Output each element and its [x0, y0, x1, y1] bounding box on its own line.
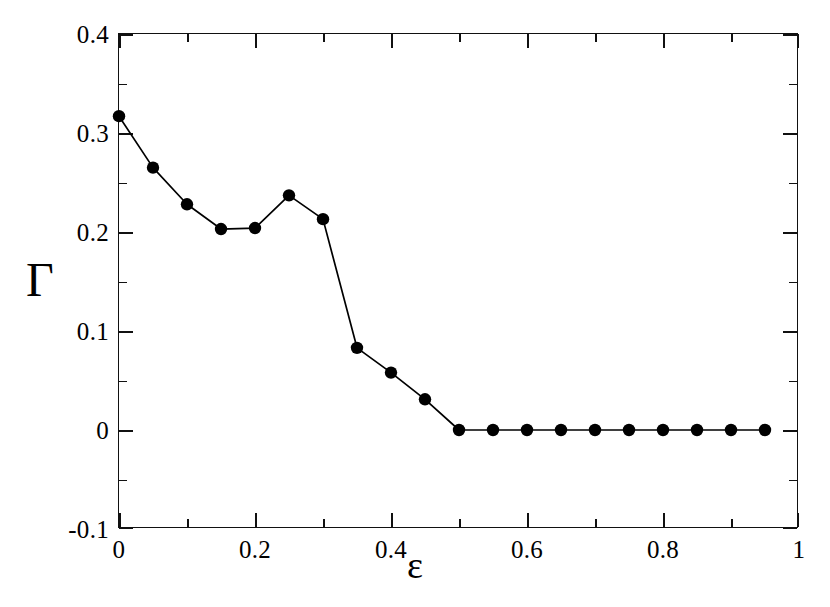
data-point: [657, 424, 669, 436]
data-point: [691, 424, 703, 436]
data-point: [283, 189, 295, 201]
y-tick-label: 0: [5, 418, 109, 443]
data-point: [181, 198, 193, 210]
data-point: [113, 110, 125, 122]
data-point: [147, 161, 159, 173]
x-tick-label: 0.4: [346, 537, 436, 562]
y-axis-title: Γ: [26, 256, 54, 304]
x-tick-label: 0.2: [210, 537, 300, 562]
x-tick-label: 0.6: [482, 537, 572, 562]
chart-figure: Γ ε: [0, 0, 830, 607]
data-point: [487, 424, 499, 436]
data-point: [249, 222, 261, 234]
data-point: [419, 393, 431, 405]
data-point: [215, 223, 227, 235]
x-tick-label: 0.8: [618, 537, 708, 562]
y-tick-label: 0.2: [5, 220, 109, 245]
data-point: [623, 424, 635, 436]
y-tick-label: 0.3: [5, 121, 109, 146]
data-point: [317, 213, 329, 225]
data-point: [759, 424, 771, 436]
x-tick-label: 0: [74, 537, 164, 562]
x-tick-label: 1: [754, 537, 830, 562]
y-tick-label: 0.1: [5, 319, 109, 344]
data-point: [385, 366, 397, 378]
series-line: [119, 116, 765, 430]
data-point: [725, 424, 737, 436]
data-point: [555, 424, 567, 436]
plot-area: 0.4 0.3 0.2 0.1 0 -0.1 0 0.2 0.4 0.6 0.8…: [118, 33, 798, 528]
data-point: [521, 424, 533, 436]
data-point: [453, 424, 465, 436]
y-tick-label: 0.4: [5, 22, 109, 47]
data-series-layer: [119, 34, 799, 529]
data-point: [351, 342, 363, 354]
series-markers: [113, 110, 771, 436]
data-point: [589, 424, 601, 436]
